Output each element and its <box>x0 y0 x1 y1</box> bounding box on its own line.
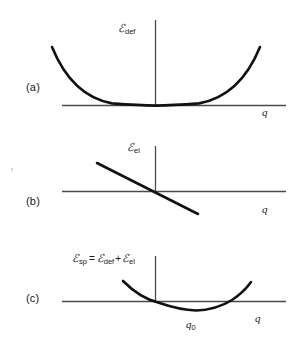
panel-a-plot <box>0 0 294 118</box>
energy-diagram-figure: (a) ℰdef q (b) ℰel q (c) ℰsp=ℰdef+ℰel <box>0 0 294 347</box>
panel-a: (a) ℰdef q <box>0 0 294 118</box>
panel-b-curve-e-el <box>97 163 198 214</box>
panel-c: (c) ℰsp=ℰdef+ℰel q0 q <box>0 230 294 347</box>
panel-c-plot <box>0 230 294 347</box>
panel-b: (b) ℰel q <box>0 118 294 230</box>
panel-c-curve-e-sp <box>123 281 251 311</box>
panel-b-plot <box>0 118 294 230</box>
